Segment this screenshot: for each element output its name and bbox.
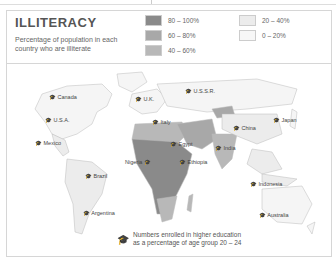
country-label-japan: 🎓 Japan — [273, 117, 297, 123]
top-border — [0, 0, 336, 5]
country-label-argentina: 🎓 Argentina — [83, 210, 115, 216]
country-label-mexico: 🎓 Mexico — [35, 140, 61, 146]
country-label-egypt: 🎓 Egypt — [170, 141, 193, 147]
country-label-ethiopia: 🎓 Ethiopia — [179, 159, 207, 165]
legend-swatch — [145, 45, 162, 56]
legend-item-60-80: 60 – 80% — [145, 30, 195, 41]
legend-swatch — [239, 30, 256, 41]
legend-item-80-100: 80 – 100% — [145, 15, 199, 26]
country-label-indonesia: 🎓 Indonesia — [250, 181, 282, 187]
country-label-ussr: 🎓 U.S.S.R. — [185, 88, 215, 94]
country-label-australia: 🎓 Australia — [259, 212, 289, 218]
country-label-nigeria: Nigeria 🎓 — [125, 159, 151, 165]
map-panel: ILLITERACY Percentage of population in e… — [6, 10, 332, 257]
country-label-brazil: 🎓 Brazil — [85, 173, 107, 179]
mortarboard-icon: 🎓 — [117, 234, 129, 245]
world-map — [7, 64, 331, 256]
legend-item-40-60: 40 – 60% — [145, 45, 195, 56]
country-label-usa: 🎓 U.S.A. — [45, 117, 69, 123]
country-label-uk: 🎓 U.K. — [135, 96, 154, 102]
legend-swatch — [145, 30, 162, 41]
country-label-india: 🎓 India — [215, 145, 235, 151]
map-header: ILLITERACY Percentage of population in e… — [7, 11, 331, 64]
footnote: 🎓 Numbers enrolled in higher education a… — [117, 231, 241, 247]
country-label-china: 🎓 China — [233, 125, 256, 131]
legend-swatch — [239, 15, 256, 26]
legend-item-20-40: 20 – 40% — [239, 15, 289, 26]
map-subtitle: Percentage of population in each country… — [15, 35, 135, 53]
country-label-canada: 🎓 Canada — [49, 94, 77, 100]
legend-item-0-20: 0 – 20% — [239, 30, 286, 41]
legend-swatch — [145, 15, 162, 26]
country-label-italy: 🎓 Italy — [152, 119, 171, 125]
map-title: ILLITERACY — [15, 15, 97, 30]
